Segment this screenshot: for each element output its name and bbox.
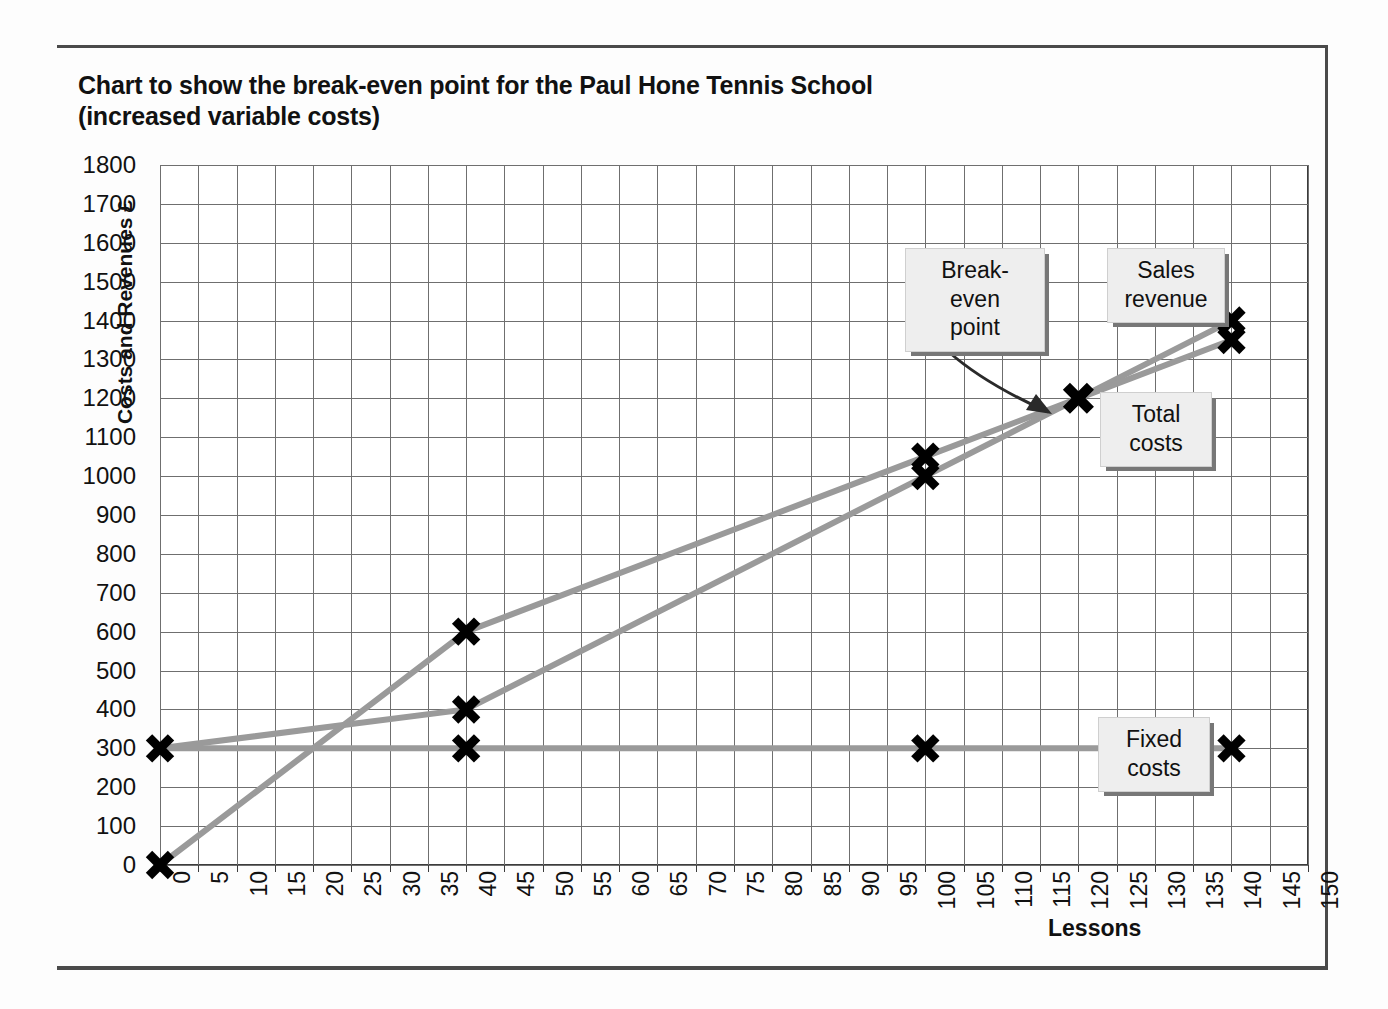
y-axis-tick-label: 1600 (16, 229, 136, 257)
x-axis-tick-mark (1231, 865, 1232, 872)
title-line-2: (increased variable costs) (78, 101, 1178, 132)
x-axis-tick-label: 45 (513, 871, 540, 897)
x-axis-tick-label: 65 (666, 871, 693, 897)
x-axis-tick-label: 145 (1279, 871, 1306, 909)
y-axis-tick-label: 700 (16, 579, 136, 607)
callout-total-line-2: costs (1115, 429, 1197, 458)
x-axis-tick-mark (964, 865, 965, 872)
x-axis-tick-mark (1078, 865, 1079, 872)
page-border-top (57, 45, 1328, 48)
callout-fixed-line-2: costs (1113, 754, 1195, 783)
y-axis-tick-label: 300 (16, 734, 136, 762)
y-axis-tick-label: 800 (16, 540, 136, 568)
x-axis-tick-label: 130 (1164, 871, 1191, 909)
y-axis-tick-label: 500 (16, 657, 136, 685)
callout-total-costs: Total costs (1100, 392, 1212, 467)
callout-breakeven-line-1: Break-even (920, 256, 1030, 313)
gridline-vertical (1308, 165, 1309, 865)
x-axis-tick-label: 135 (1202, 871, 1229, 909)
title-line-1: Chart to show the break-even point for t… (78, 71, 873, 99)
x-axis-tick-label: 75 (743, 871, 770, 897)
x-axis-tick-mark (1117, 865, 1118, 872)
x-axis-tick-label: 55 (590, 871, 617, 897)
x-axis-tick-mark (275, 865, 276, 872)
data-point-marker (914, 465, 936, 487)
x-axis-tick-mark (313, 865, 314, 872)
x-axis-tick-mark (237, 865, 238, 872)
x-axis-tick-label: 5 (207, 871, 234, 884)
y-axis-tick-label: 200 (16, 773, 136, 801)
page-border-right (1325, 45, 1328, 970)
x-axis-tick-label: 85 (820, 871, 847, 897)
x-axis-title: Lessons (1048, 915, 1141, 942)
y-axis-tick-label: 900 (16, 501, 136, 529)
x-axis-tick-label: 110 (1011, 871, 1038, 908)
x-axis-tick-label: 95 (896, 871, 923, 897)
x-axis-tick-mark (198, 865, 199, 872)
x-axis-tick-mark (1308, 865, 1309, 872)
x-axis-tick-mark (925, 865, 926, 872)
y-axis-tick-label: 1100 (16, 423, 136, 451)
x-axis-tick-label: 80 (781, 871, 808, 897)
y-axis-tick-label: 1000 (16, 462, 136, 490)
x-axis-tick-mark (696, 865, 697, 872)
x-axis-tick-mark (1155, 865, 1156, 872)
y-axis-tick-label: 600 (16, 618, 136, 646)
y-axis-tick-label: 400 (16, 695, 136, 723)
x-axis-tick-label: 15 (284, 871, 311, 897)
y-axis-tick-label: 1200 (16, 384, 136, 412)
x-axis-tick-mark (811, 865, 812, 872)
y-axis-tick-label: 1700 (16, 190, 136, 218)
x-axis-tick-mark (466, 865, 467, 872)
page-border-bottom (57, 966, 1328, 970)
y-axis-tick-label: 100 (16, 812, 136, 840)
x-axis-tick-label: 120 (1087, 871, 1114, 909)
x-axis-tick-mark (619, 865, 620, 872)
callout-sales-line-1: Sales (1122, 256, 1210, 285)
x-axis-tick-label: 50 (552, 871, 579, 897)
y-axis-tick-label: 1800 (16, 151, 136, 179)
x-axis-tick-mark (351, 865, 352, 872)
x-axis-tick-mark (734, 865, 735, 872)
x-axis-tick-label: 35 (437, 871, 464, 897)
x-axis-tick-mark (1270, 865, 1271, 872)
callout-sales-line-2: revenue (1122, 285, 1210, 314)
x-axis-tick-mark (657, 865, 658, 872)
x-axis-tick-label: 90 (858, 871, 885, 897)
chart-page: Chart to show the break-even point for t… (0, 0, 1388, 1009)
x-axis-tick-label: 70 (705, 871, 732, 897)
x-axis-tick-label: 60 (628, 871, 655, 897)
x-axis-tick-mark (543, 865, 544, 872)
callout-fixed-line-1: Fixed (1113, 725, 1195, 754)
x-axis-tick-mark (849, 865, 850, 872)
x-axis-tick-mark (1002, 865, 1003, 872)
x-axis-tick-label: 100 (934, 871, 961, 909)
x-axis-tick-mark (772, 865, 773, 872)
x-axis-tick-mark (504, 865, 505, 872)
x-axis-tick-label: 40 (475, 871, 502, 897)
x-axis-tick-label: 25 (360, 871, 387, 897)
x-axis-tick-label: 30 (399, 871, 426, 897)
callout-sales-revenue: Sales revenue (1107, 248, 1225, 323)
x-axis-tick-label: 10 (246, 871, 273, 897)
callout-fixed-costs: Fixed costs (1098, 717, 1210, 792)
x-axis-tick-label: 150 (1317, 871, 1344, 909)
x-axis-tick-label: 105 (973, 871, 1000, 909)
callout-total-line-1: Total (1115, 400, 1197, 429)
x-axis-tick-mark (1040, 865, 1041, 872)
y-axis-tick-label: 1500 (16, 268, 136, 296)
x-axis-tick-label: 115 (1049, 871, 1076, 908)
y-axis-tick-label: 1400 (16, 307, 136, 335)
callout-breakeven-line-2: point (920, 313, 1030, 342)
x-axis-tick-label: 125 (1126, 871, 1153, 909)
y-axis-tick-label: 0 (16, 851, 136, 879)
x-axis-tick-label: 140 (1240, 871, 1267, 909)
x-axis-tick-mark (581, 865, 582, 872)
x-axis-tick-mark (1193, 865, 1194, 872)
x-axis-tick-mark (428, 865, 429, 872)
callout-break-even-point: Break-even point (905, 248, 1045, 352)
y-axis-tick-label: 1300 (16, 345, 136, 373)
x-axis-tick-mark (887, 865, 888, 872)
x-axis-tick-mark (390, 865, 391, 872)
page-title: Chart to show the break-even point for t… (78, 70, 1178, 133)
